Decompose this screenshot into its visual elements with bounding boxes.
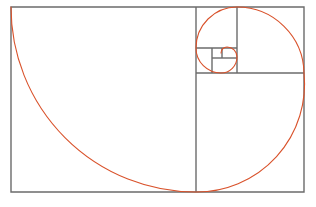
fibonacci-spiral-diagram (0, 0, 316, 207)
figure-background (0, 0, 316, 207)
figure-canvas (0, 0, 316, 207)
